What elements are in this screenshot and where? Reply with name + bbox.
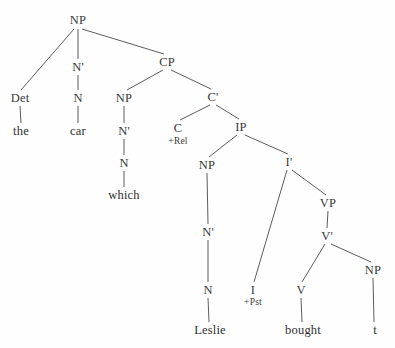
tree-node-n-which: N bbox=[119, 157, 128, 170]
tree-node-vbar: V' bbox=[321, 230, 333, 243]
tree-node-np-trace: NP bbox=[365, 264, 381, 277]
tree-node-n-car: N bbox=[73, 92, 82, 105]
tree-branch bbox=[331, 244, 371, 262]
tree-node-np-which: NP bbox=[116, 92, 132, 105]
tree-branch bbox=[180, 105, 210, 120]
tree-node-pst: +Pst bbox=[244, 298, 262, 308]
tree-edges-layer bbox=[0, 0, 395, 348]
tree-branch bbox=[207, 173, 208, 224]
tree-branch bbox=[209, 135, 237, 157]
tree-node-ibar: I' bbox=[286, 156, 293, 169]
tree-node-rel: +Rel bbox=[168, 137, 187, 147]
tree-node-nbar-leslie: N' bbox=[202, 226, 214, 239]
tree-node-n-leslie: N bbox=[203, 284, 212, 297]
tree-node-nbar-which: N' bbox=[118, 125, 130, 138]
tree-branch bbox=[301, 298, 302, 322]
syntax-tree-diagram: NPDettheN'NcarCPNPN'NwhichC'C+RelIPNPN'N… bbox=[0, 0, 395, 348]
tree-node-the: the bbox=[13, 125, 29, 138]
tree-branch bbox=[82, 29, 164, 54]
tree-node-leslie: Leslie bbox=[194, 324, 226, 337]
tree-node-nbar-car: N' bbox=[72, 61, 84, 74]
tree-node-det: Det bbox=[11, 92, 30, 105]
tree-node-c: C bbox=[174, 122, 183, 135]
tree-branch bbox=[245, 135, 288, 154]
tree-node-v: V bbox=[296, 284, 305, 297]
tree-node-cp: CP bbox=[159, 56, 175, 69]
tree-branch bbox=[171, 70, 211, 89]
tree-branch bbox=[254, 170, 287, 282]
tree-node-vp: VP bbox=[320, 197, 336, 210]
tree-branch bbox=[208, 298, 209, 322]
tree-node-car: car bbox=[70, 125, 86, 138]
tree-node-np-leslie: NP bbox=[199, 159, 215, 172]
tree-node-cbar: C' bbox=[208, 91, 219, 104]
tree-node-ip: IP bbox=[235, 121, 247, 134]
tree-node-which: which bbox=[108, 189, 140, 202]
tree-branch bbox=[373, 278, 374, 322]
tree-node-i: I bbox=[251, 284, 255, 297]
tree-node-bought: bought bbox=[285, 324, 321, 337]
tree-node-np-top: NP bbox=[70, 14, 86, 27]
tree-branch bbox=[327, 211, 328, 228]
tree-branch bbox=[292, 170, 326, 195]
tree-branch bbox=[302, 244, 325, 282]
tree-branch bbox=[21, 29, 74, 90]
tree-branch bbox=[127, 70, 163, 90]
tree-node-trace: t bbox=[373, 324, 377, 337]
tree-branch bbox=[216, 105, 239, 119]
tree-branch bbox=[20, 106, 21, 123]
